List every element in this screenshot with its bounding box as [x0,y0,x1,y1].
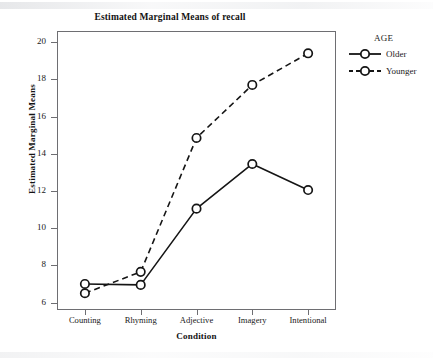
data-point-marker [81,289,89,297]
data-point-marker [137,268,145,276]
y-tick-label: 14 [20,148,46,158]
y-axis-title: Estimated Marginal Means [27,39,37,239]
y-tick-mark [51,117,57,118]
data-point-marker [304,186,312,194]
y-tick-label: 20 [20,36,46,46]
y-tick-mark [51,303,57,304]
series-line-older [85,164,308,285]
plot-lines [57,31,336,310]
legend-entries: OlderYounger [348,45,433,79]
scan-artifact-top [0,2,433,9]
y-tick-mark [51,265,57,266]
data-point-marker [248,81,256,89]
data-point-marker [304,49,312,57]
y-tick-label: 18 [20,73,46,83]
x-axis-title: Condition [57,331,336,341]
y-tick-label: 6 [20,297,46,307]
chart-title: Estimated Marginal Means of recall [0,12,340,22]
legend-marker-icon [348,47,382,61]
data-point-marker [81,280,89,288]
x-tick-label: Intentional [270,315,346,325]
legend-title: AGE [374,33,433,43]
chart-page: Estimated Marginal Means of recall Estim… [0,0,433,363]
y-tick-mark [51,42,57,43]
y-tick-label: 12 [20,185,46,195]
series-line-younger [85,53,308,293]
legend-marker-icon [348,64,382,78]
y-tick-mark [51,191,57,192]
scan-artifact-bottom [0,352,433,358]
legend: AGE OlderYounger [348,33,433,79]
data-point-marker [137,281,145,289]
data-point-marker [192,134,200,142]
legend-label: Younger [386,66,417,76]
legend-label: Older [386,49,407,59]
y-tick-mark [51,228,57,229]
data-point-marker [248,160,256,168]
y-tick-label: 16 [20,111,46,121]
y-tick-label: 10 [20,222,46,232]
y-tick-label: 8 [20,259,46,269]
data-point-marker [192,204,200,212]
legend-item-older[interactable]: Older [348,45,433,62]
y-tick-mark [51,79,57,80]
legend-item-younger[interactable]: Younger [348,62,433,79]
y-tick-mark [51,154,57,155]
